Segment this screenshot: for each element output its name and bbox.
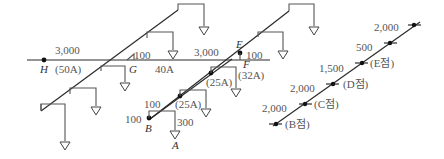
fixture-icon bbox=[91, 107, 101, 115]
riser-seg2-length: 2,000 bbox=[290, 82, 315, 94]
label-seg2-size: (25A) bbox=[175, 98, 202, 111]
piping-diagram: 3,000 (50A) H 100 G 40A 3,000 E 100 F (3… bbox=[0, 0, 444, 159]
riser-seg5-length: 2,000 bbox=[374, 21, 399, 33]
riser-seg2-point: (C점) bbox=[314, 98, 339, 111]
riser-seg3-point: (D점) bbox=[343, 78, 369, 91]
branch-b-a bbox=[149, 111, 175, 130]
branch-top-2 bbox=[289, 4, 314, 26]
label-b-horizontal: 100 bbox=[144, 98, 161, 110]
label-g-e-length: 3,000 bbox=[194, 46, 219, 58]
node-h-dot bbox=[42, 58, 47, 63]
fixture-icon bbox=[120, 83, 130, 91]
branch-mid-2 bbox=[258, 32, 283, 50]
node-h-label: H bbox=[39, 63, 49, 75]
label-h-g-size: (50A) bbox=[55, 63, 82, 76]
fixture-icon bbox=[199, 27, 209, 35]
label-f-size: (32A) bbox=[238, 69, 265, 82]
riser-seg3-length: 1,500 bbox=[319, 62, 344, 74]
label-g-riser: 100 bbox=[134, 49, 151, 61]
fixture-icon bbox=[168, 51, 178, 59]
riser-seg1-point: (B점) bbox=[285, 118, 310, 131]
label-b-riser: 100 bbox=[125, 113, 142, 125]
label-seg1-size: (25A) bbox=[206, 76, 233, 89]
riser-chart-line bbox=[273, 22, 420, 126]
g-riser-mark bbox=[127, 54, 134, 60]
riser-seg1-length: 2,000 bbox=[262, 102, 287, 114]
branch-low-1 bbox=[70, 88, 96, 106]
riser-seg4-point: (E점) bbox=[370, 57, 394, 70]
fixture-icon bbox=[278, 51, 288, 59]
fixture-icon bbox=[60, 142, 70, 150]
fixture-icon bbox=[231, 89, 241, 97]
branch-top-1 bbox=[178, 4, 204, 26]
branch-g bbox=[101, 66, 125, 82]
label-g-e-size: 40A bbox=[155, 63, 174, 75]
node-g-label: G bbox=[129, 63, 137, 75]
label-a-drop: 300 bbox=[177, 116, 194, 128]
branch-low-2 bbox=[41, 104, 65, 141]
node-b-label: B bbox=[145, 122, 152, 134]
label-h-g-length: 3,000 bbox=[55, 44, 80, 56]
node-a-label: A bbox=[171, 139, 179, 151]
branch-mid-1 bbox=[147, 32, 173, 50]
fixture-icon bbox=[309, 27, 319, 35]
node-e-label: E bbox=[235, 38, 243, 50]
riser-seg4-length: 500 bbox=[356, 41, 373, 53]
fixture-icon bbox=[201, 109, 211, 117]
fixture-icon bbox=[170, 131, 180, 139]
